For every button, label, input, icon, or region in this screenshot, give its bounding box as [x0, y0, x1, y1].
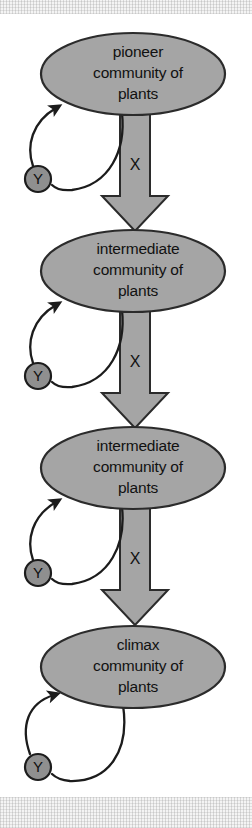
feedback-loop-return-arrow [30, 108, 56, 166]
feedback-loop-return-arrow [30, 305, 56, 363]
node-pioneer-community: pioneer community of plants [41, 33, 225, 115]
feedback-marker-label: Y [33, 170, 43, 187]
feedback-loop-2: Y [25, 305, 123, 389]
node-label-line3: plants [118, 678, 159, 695]
node-label-line2: community of [93, 458, 184, 475]
node-climax-community: climax community of plants [41, 626, 225, 708]
feedback-loop-return-arrow [30, 502, 56, 560]
node-label-line3: plants [118, 85, 159, 102]
feedback-loop-outbound-path [52, 507, 123, 584]
feedback-marker-label: Y [33, 367, 43, 384]
feedback-loop-outbound-path [52, 310, 123, 387]
feedback-marker-label: Y [33, 564, 43, 581]
transition-arrow-label: X [130, 353, 141, 370]
feedback-loop-return-arrow [26, 695, 54, 754]
node-label-line2: community of [93, 657, 184, 674]
node-intermediate-community-2: intermediate community of plants [41, 427, 225, 509]
node-label-line1: intermediate [97, 437, 180, 454]
transition-arrow-1: X [102, 108, 168, 231]
node-label-line3: plants [118, 479, 159, 496]
feedback-loop-1: Y [25, 108, 123, 192]
transition-arrow-3: X [102, 502, 168, 625]
succession-diagram: X X X Y Y [0, 0, 252, 828]
feedback-loop-outbound-path [52, 705, 124, 781]
node-label-line1: intermediate [97, 240, 180, 257]
transition-arrow-label: X [130, 550, 141, 567]
node-label-line1: pioneer [113, 43, 163, 60]
feedback-loop-4: Y [25, 695, 124, 781]
transition-arrow-2: X [102, 305, 168, 428]
node-label-line1: climax [117, 636, 160, 653]
node-intermediate-community-1: intermediate community of plants [41, 230, 225, 312]
node-label-line2: community of [93, 261, 184, 278]
feedback-loop-outbound-path [52, 113, 123, 190]
node-label-line2: community of [93, 64, 184, 81]
feedback-loop-3: Y [25, 502, 123, 586]
feedback-marker-label: Y [33, 758, 43, 775]
transition-arrow-label: X [130, 156, 141, 173]
diagram-canvas: X X X Y Y [0, 0, 252, 828]
node-label-line3: plants [118, 282, 159, 299]
